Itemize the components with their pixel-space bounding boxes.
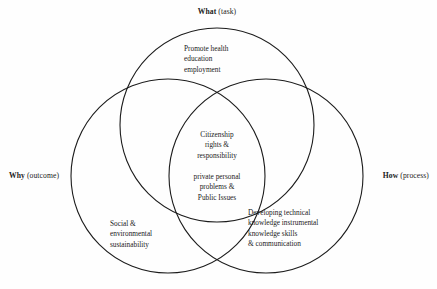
axis-label-why: Why (outcome) (9, 171, 59, 180)
axis-label-what-strong: What (198, 7, 217, 16)
region-line: Citizenship (197, 130, 237, 140)
region-line: knowledge skills (248, 229, 318, 239)
region-line: education (184, 54, 228, 64)
what-task-region-text: Promote health education employment (184, 44, 228, 75)
region-line: Public Issues (194, 193, 241, 203)
region-line: responsibility (197, 151, 237, 161)
axis-label-how-rest: (process) (398, 171, 429, 180)
why-outcome-region-text: Social & environmental sustainability (110, 219, 152, 250)
axis-label-why-rest: (outcome) (25, 171, 59, 180)
axis-label-why-strong: Why (9, 171, 25, 180)
axis-label-how-strong: How (383, 171, 399, 180)
region-line: knowledge instrumental (248, 218, 318, 228)
region-line: Developing technical (248, 208, 318, 218)
region-line: private personal (194, 172, 241, 182)
how-process-region-text: Developing technical knowledge instrumen… (248, 208, 318, 249)
venn-diagram-canvas: What (task) Why (outcome) How (process) … (0, 0, 437, 289)
axis-label-how: How (process) (383, 171, 429, 180)
center-overlap-upper-text: Citizenship rights & responsibility (197, 130, 237, 161)
region-line: employment (184, 65, 228, 75)
region-line: & communication (248, 239, 318, 249)
axis-label-what-rest: (task) (216, 7, 236, 16)
region-line: sustainability (110, 240, 152, 250)
axis-label-what: What (task) (198, 7, 236, 16)
center-overlap-lower-text: private personal problems & Public Issue… (194, 172, 241, 203)
region-line: rights & (197, 140, 237, 150)
region-line: Social & (110, 219, 152, 229)
region-line: Promote health (184, 44, 228, 54)
region-line: environmental (110, 229, 152, 239)
region-line: problems & (194, 182, 241, 192)
